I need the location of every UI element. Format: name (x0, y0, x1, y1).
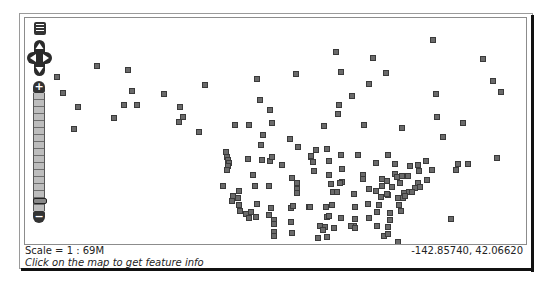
feature-point[interactable] (307, 204, 313, 210)
feature-point[interactable] (402, 193, 408, 199)
feature-point[interactable] (378, 194, 384, 200)
feature-point[interactable] (324, 234, 330, 240)
feature-point[interactable] (494, 155, 500, 161)
feature-point[interactable] (129, 88, 135, 94)
feature-point[interactable] (94, 63, 100, 69)
feature-point[interactable] (324, 146, 330, 152)
feature-point[interactable] (320, 227, 326, 233)
feature-point[interactable] (335, 111, 341, 117)
feature-point[interactable] (293, 71, 299, 77)
map-canvas[interactable] (24, 17, 527, 245)
feature-point[interactable] (229, 198, 235, 204)
feature-point[interactable] (338, 152, 344, 158)
feature-point[interactable] (416, 168, 422, 174)
feature-point[interactable] (111, 115, 117, 121)
feature-point[interactable] (75, 104, 81, 110)
feature-point[interactable] (498, 89, 504, 95)
feature-point[interactable] (385, 152, 391, 158)
feature-point[interactable] (349, 93, 355, 99)
feature-point[interactable] (269, 154, 275, 160)
feature-point[interactable] (365, 201, 371, 207)
zoom-slider-track[interactable] (33, 93, 45, 211)
feature-point[interactable] (376, 202, 382, 208)
feature-point[interactable] (134, 102, 140, 108)
feature-point[interactable] (232, 122, 238, 128)
feature-point[interactable] (352, 204, 358, 210)
feature-point[interactable] (271, 221, 277, 227)
feature-point[interactable] (423, 158, 429, 164)
feature-point[interactable] (389, 184, 395, 190)
feature-point[interactable] (254, 201, 260, 207)
feature-point[interactable] (253, 214, 259, 220)
feature-point[interactable] (480, 56, 486, 62)
feature-point[interactable] (333, 49, 339, 55)
feature-point[interactable] (383, 70, 389, 76)
feature-point[interactable] (398, 208, 404, 214)
feature-point[interactable] (395, 239, 401, 245)
feature-point[interactable] (288, 219, 294, 225)
feature-point[interactable] (202, 82, 208, 88)
feature-point[interactable] (267, 107, 273, 113)
feature-point[interactable] (294, 190, 300, 196)
feature-point[interactable] (465, 161, 471, 167)
feature-point[interactable] (379, 183, 385, 189)
feature-point[interactable] (60, 90, 66, 96)
zoom-slider-handle[interactable] (33, 198, 47, 204)
feature-point[interactable] (235, 195, 241, 201)
feature-point[interactable] (236, 188, 242, 194)
feature-point[interactable] (392, 161, 398, 167)
feature-point[interactable] (328, 181, 334, 187)
feature-point[interactable] (373, 160, 379, 166)
zoom-in-button[interactable]: + (33, 81, 45, 93)
feature-point[interactable] (336, 102, 342, 108)
feature-point[interactable] (338, 215, 344, 221)
feature-point[interactable] (269, 120, 275, 126)
feature-point[interactable] (326, 158, 332, 164)
feature-point[interactable] (397, 180, 403, 186)
feature-point[interactable] (246, 215, 252, 221)
feature-point[interactable] (257, 97, 263, 103)
feature-point[interactable] (385, 231, 391, 237)
feature-point[interactable] (351, 191, 357, 197)
feature-point[interactable] (259, 157, 265, 163)
feature-point[interactable] (366, 215, 372, 221)
layer-switcher-button[interactable] (34, 22, 46, 35)
feature-point[interactable] (361, 122, 367, 128)
feature-point[interactable] (409, 189, 415, 195)
feature-point[interactable] (271, 233, 277, 239)
feature-point[interactable] (399, 125, 405, 131)
feature-point[interactable] (329, 202, 335, 208)
feature-point[interactable] (337, 180, 343, 186)
feature-point[interactable] (352, 216, 358, 222)
feature-point[interactable] (245, 156, 251, 162)
feature-point[interactable] (310, 159, 316, 165)
feature-point[interactable] (395, 195, 401, 201)
feature-point[interactable] (334, 189, 340, 195)
feature-point[interactable] (433, 91, 439, 97)
feature-point[interactable] (387, 217, 393, 223)
zoom-out-button[interactable]: − (33, 211, 45, 223)
feature-point[interactable] (352, 225, 358, 231)
feature-point[interactable] (440, 134, 446, 140)
feature-point[interactable] (125, 67, 131, 73)
feature-point[interactable] (366, 81, 372, 87)
feature-point[interactable] (290, 203, 296, 209)
feature-point[interactable] (338, 69, 344, 75)
feature-point[interactable] (490, 78, 496, 84)
feature-point[interactable] (246, 122, 252, 128)
feature-point[interactable] (384, 191, 390, 197)
feature-point[interactable] (287, 136, 293, 142)
feature-point[interactable] (360, 176, 366, 182)
feature-point[interactable] (366, 186, 372, 192)
feature-point[interactable] (268, 205, 274, 211)
feature-point[interactable] (311, 168, 317, 174)
feature-point[interactable] (196, 129, 202, 135)
feature-point[interactable] (331, 225, 337, 231)
feature-point[interactable] (315, 235, 321, 241)
feature-point[interactable] (407, 163, 413, 169)
feature-point[interactable] (54, 74, 60, 80)
feature-point[interactable] (258, 142, 264, 148)
feature-point[interactable] (176, 119, 182, 125)
feature-point[interactable] (71, 126, 77, 132)
feature-point[interactable] (250, 172, 256, 178)
